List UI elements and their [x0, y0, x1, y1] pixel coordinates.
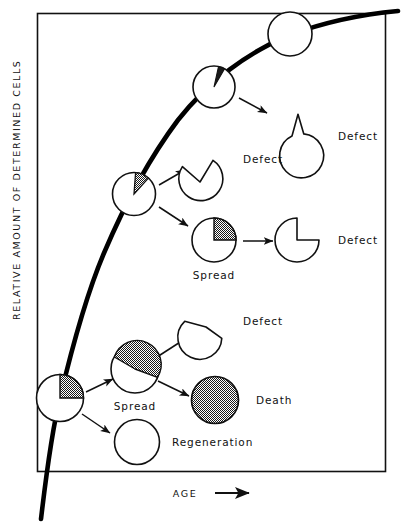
outcome-death-label: Death	[256, 394, 292, 406]
stage-young-node[interactable]	[37, 375, 84, 422]
outcome-defect-middle-shape	[179, 160, 223, 200]
outcome-regeneration-label: Regeneration	[172, 436, 253, 448]
arrow-young-to-regeneration	[82, 414, 110, 433]
outcome-spread-middle[interactable]: Spread	[192, 218, 236, 281]
outcome-defect-spread-middle-shape	[275, 218, 319, 262]
outcome-spread-young-label: Spread	[114, 400, 156, 412]
outcome-defect-old-label: Defect	[338, 130, 378, 142]
stage-oldest-node[interactable]	[268, 12, 312, 56]
outcome-spread-middle-wedge	[214, 218, 236, 240]
outcome-spread-middle-label: Spread	[193, 269, 235, 281]
figure-root: RELATIVE AMOUNT OF DETERMINED CELLS AGE	[0, 0, 403, 523]
stage-middle-node[interactable]	[113, 173, 156, 216]
outcome-spread-young[interactable]: Spread	[111, 341, 161, 412]
outcome-defect-spread-middle-label: Defect	[338, 234, 378, 246]
arrow-old-to-defect	[239, 98, 267, 113]
stage-young-determined-wedge	[60, 375, 84, 399]
outcome-defect-spread-middle[interactable]: Defect	[275, 218, 378, 262]
y-axis-label: RELATIVE AMOUNT OF DETERMINED CELLS	[11, 60, 22, 320]
outcome-regeneration[interactable]: Regeneration	[115, 420, 254, 465]
arrow-young-to-spread	[86, 379, 113, 392]
outcome-defect-middle-label: Defect	[243, 153, 283, 165]
diagram-canvas: RELATIVE AMOUNT OF DETERMINED CELLS AGE	[0, 0, 403, 523]
stage-old-node[interactable]	[193, 66, 235, 108]
outcome-defect-old-shape	[280, 114, 324, 178]
outcome-defect-young-shape	[178, 321, 222, 359]
outcome-defect-young[interactable]: Defect	[178, 315, 283, 359]
arrow-spread-to-death	[158, 381, 189, 396]
outcome-defect-old[interactable]: Defect	[280, 114, 378, 178]
outcome-defect-young-label: Defect	[243, 315, 283, 327]
arrow-middle-to-spread	[159, 207, 188, 226]
outcome-death-circle	[192, 377, 239, 424]
x-axis-label: AGE	[173, 488, 198, 499]
outcome-defect-middle[interactable]: Defect	[179, 153, 283, 201]
stage-oldest-circle	[268, 12, 312, 56]
outcome-death[interactable]: Death	[192, 377, 293, 424]
outcome-regeneration-circle	[115, 420, 160, 465]
